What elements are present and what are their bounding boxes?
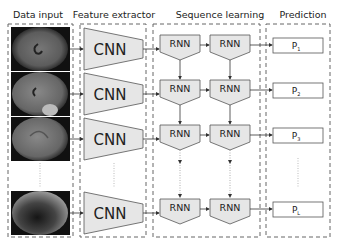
input-frame-1 — [11, 27, 70, 71]
header-feature-extractor: Feature extractor — [73, 9, 155, 20]
input-frame-3 — [11, 117, 70, 161]
rnn-label: RNN — [220, 38, 241, 49]
cnn-label-L: CNN — [94, 205, 127, 223]
rnn-label: RNN — [220, 202, 241, 213]
input-frame-L — [11, 191, 70, 235]
cnn-label-3: CNN — [94, 131, 127, 149]
cnn-label-1: CNN — [94, 41, 127, 59]
rnn-label: RNN — [220, 83, 241, 94]
cnn-label-2: CNN — [94, 86, 127, 104]
rnn-label: RNN — [170, 38, 191, 49]
rnn-label: RNN — [170, 128, 191, 139]
rnn-label: RNN — [220, 128, 241, 139]
rnn-label: RNN — [170, 83, 191, 94]
header-prediction: Prediction — [279, 9, 326, 20]
rnn-label: RNN — [170, 202, 191, 213]
input-frame-2 — [11, 72, 70, 116]
header-data-input: Data input — [13, 9, 63, 20]
header-sequence-learning: Sequence learning — [176, 9, 265, 20]
pipeline-diagram: Data input Feature extractor Sequence le… — [0, 0, 339, 243]
